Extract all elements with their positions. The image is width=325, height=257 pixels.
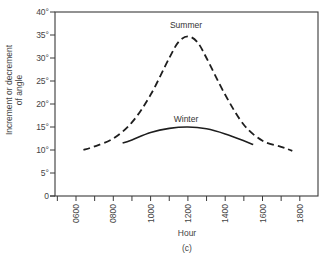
plot-frame [55, 12, 318, 196]
x-tick-label: 0800 [108, 204, 118, 223]
y-tick-label: 25° [36, 76, 49, 86]
winter-label: Winter [174, 114, 199, 124]
y-tick-label: 5° [41, 168, 49, 178]
figure-caption: (c) [182, 243, 192, 253]
y-tick-label: 30° [36, 53, 49, 63]
series-summer-line [83, 36, 292, 150]
series-winter-line [123, 127, 254, 145]
angle-by-hour-chart: 05°10°15°20°25°30°35°40° 060008001000120… [0, 0, 325, 257]
x-tick-label: 1600 [258, 204, 268, 223]
y-axis-title-line-2: of angle [14, 75, 24, 106]
x-tick-label: 0600 [71, 204, 81, 223]
x-tick-label: 1400 [220, 204, 230, 223]
y-axis-title: Increment or decrementof angle [4, 44, 24, 135]
y-tick-label: 0 [44, 191, 49, 201]
x-axis: 0600080010001200140016001800 [50, 196, 305, 223]
data-series [83, 36, 292, 150]
y-axis: 05°10°15°20°25°30°35°40° [36, 7, 55, 201]
x-tick-label: 1200 [183, 204, 193, 223]
y-tick-label: 40° [36, 7, 49, 17]
series-labels: SummerWinter [170, 20, 202, 124]
plot-border [55, 12, 318, 196]
x-tick-label: 1000 [146, 204, 156, 223]
y-axis-title-line-1: Increment or decrement [4, 44, 14, 135]
y-tick-label: 15° [36, 122, 49, 132]
y-tick-label: 10° [36, 145, 49, 155]
x-axis-title: Hour [178, 228, 197, 238]
x-tick-label: 1800 [295, 204, 305, 223]
y-tick-label: 20° [36, 99, 49, 109]
y-tick-label: 35° [36, 30, 49, 40]
summer-label: Summer [170, 20, 202, 30]
